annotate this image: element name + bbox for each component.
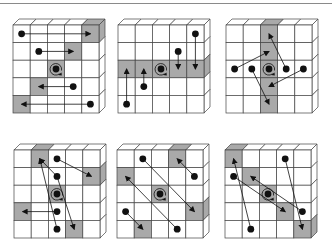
grid-cell [14, 185, 31, 203]
grid-cell [117, 150, 134, 168]
grid-cell [277, 220, 294, 238]
dot [248, 66, 255, 73]
grid-cell [14, 150, 31, 168]
panel-5 [117, 143, 211, 239]
grid-cell [278, 95, 295, 113]
top-rule [0, 3, 332, 4]
grid-cell [186, 150, 203, 168]
dot [174, 226, 181, 233]
grid-cell [13, 78, 30, 96]
dot [247, 226, 254, 233]
panel-1 [13, 18, 107, 114]
grid-cell [187, 78, 204, 96]
grid-cell [151, 220, 168, 238]
dot [54, 155, 61, 162]
grid-cell [243, 25, 260, 43]
grid-cell [134, 168, 151, 186]
grid-cell [170, 25, 187, 43]
dot [299, 208, 306, 215]
grid-cell [226, 78, 243, 96]
dot [191, 173, 198, 180]
panel-2 [118, 18, 212, 114]
dot [54, 173, 61, 180]
grid-cell [152, 78, 169, 96]
dot [54, 226, 61, 233]
grid-cell [187, 95, 204, 113]
grid-cell [278, 25, 295, 43]
grid-cell [30, 60, 47, 78]
grid-cell [225, 203, 242, 221]
grid-cell [259, 168, 276, 186]
grid-cell [151, 150, 168, 168]
dot [123, 101, 130, 108]
grid-cell [259, 150, 276, 168]
grid-cell [83, 203, 100, 221]
grid-cell [31, 220, 48, 238]
grid-cell [169, 203, 186, 221]
dot [139, 155, 146, 162]
dot [87, 101, 94, 108]
panel-3 [226, 18, 320, 114]
grid-cell [226, 25, 243, 43]
grid-cell [14, 168, 31, 186]
grid-cell [82, 78, 99, 96]
grid-cell [152, 95, 169, 113]
dot [70, 83, 77, 90]
grid-cell [186, 220, 203, 238]
grid-cell [152, 43, 169, 61]
grid-cell [259, 203, 276, 221]
panel-6 [225, 143, 319, 239]
dot [140, 83, 147, 90]
grid-cell [135, 43, 152, 61]
grid-cell [134, 203, 151, 221]
dot [282, 155, 289, 162]
grid-cell [242, 150, 259, 168]
grid-cell [225, 185, 242, 203]
grid-cell [259, 220, 276, 238]
grid-cell [118, 43, 135, 61]
grid-cell [170, 95, 187, 113]
grid-cell [243, 95, 260, 113]
grid-cell [294, 150, 311, 168]
grid-cell [13, 43, 30, 61]
dot [54, 208, 61, 215]
grid-cell [294, 185, 311, 203]
center-dot [158, 66, 165, 73]
grid-cell [260, 25, 277, 43]
grid-cell [277, 203, 294, 221]
grid-cell [186, 185, 203, 203]
grid-cell [135, 25, 152, 43]
panel-4 [14, 143, 108, 239]
dot [230, 173, 237, 180]
grid-cell [295, 43, 312, 61]
grid-cell [117, 185, 134, 203]
dot [283, 66, 290, 73]
grid-cell [170, 78, 187, 96]
grid-cell [82, 60, 99, 78]
dot [231, 66, 238, 73]
center-dot [157, 191, 164, 198]
grid-cell [83, 150, 100, 168]
grid-cell [65, 60, 82, 78]
grid-cell [14, 220, 31, 238]
grid-cell [118, 25, 135, 43]
dot [122, 208, 129, 215]
grid-cell [83, 185, 100, 203]
grid-cell [83, 220, 100, 238]
center-dot [54, 191, 61, 198]
grid-cell [152, 25, 169, 43]
grid-cell [82, 43, 99, 61]
dot [300, 66, 307, 73]
dot [18, 30, 25, 37]
grid-cell [242, 168, 259, 186]
grid-cell [294, 168, 311, 186]
dot [175, 48, 182, 55]
grid-cell [135, 95, 152, 113]
grid-cell [169, 168, 186, 186]
center-dot [265, 191, 272, 198]
grid-cell [295, 95, 312, 113]
grid-cell [66, 185, 83, 203]
grid-cell [226, 43, 243, 61]
grid-cell [31, 185, 48, 203]
center-dot [53, 66, 60, 73]
